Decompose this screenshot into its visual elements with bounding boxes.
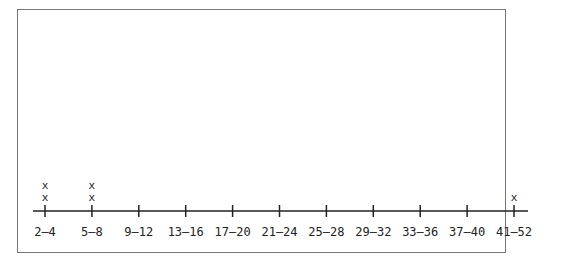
tick-label: 41–52 <box>496 225 532 239</box>
tick-label: 25–28 <box>308 225 344 239</box>
x-mark: x <box>89 191 96 204</box>
tick-label: 29–32 <box>355 225 391 239</box>
tick-label: 5–8 <box>81 225 103 239</box>
tick-label: 9–12 <box>124 225 153 239</box>
tick-label: 37–40 <box>449 225 485 239</box>
tick-label: 33–36 <box>402 225 438 239</box>
x-mark: x <box>42 191 49 204</box>
line-plot: 2–4xx5–8xx9–1213–1617–2021–2425–2829–323… <box>0 0 564 268</box>
x-mark: x <box>42 179 49 192</box>
tick-label: 13–16 <box>168 225 204 239</box>
x-mark: x <box>511 191 518 204</box>
x-mark: x <box>89 179 96 192</box>
tick-label: 2–4 <box>34 225 56 239</box>
tick-label: 17–20 <box>215 225 251 239</box>
tick-label: 21–24 <box>261 225 297 239</box>
